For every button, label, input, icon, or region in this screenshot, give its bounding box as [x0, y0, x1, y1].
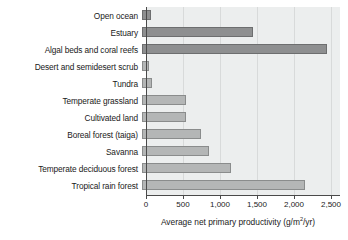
bar-row: Temperate grassland	[0, 92, 348, 109]
bar-track	[142, 143, 342, 160]
bar-track	[142, 41, 342, 58]
x-tick-2500	[331, 195, 332, 199]
x-tick-1000	[220, 195, 221, 199]
bar-row: Tundra	[0, 75, 348, 92]
x-tick-label: 1,500	[247, 200, 267, 209]
y-axis-line	[146, 7, 147, 195]
bar-track	[142, 75, 342, 92]
bar-track	[142, 7, 342, 24]
bar	[142, 146, 209, 156]
category-label: Temperate deciduous forest	[0, 164, 142, 174]
bar-row: Temperate deciduous forest	[0, 160, 348, 177]
category-label: Cultivated land	[0, 113, 142, 123]
x-tick-500	[183, 195, 184, 199]
category-label: Boreal forest (taiga)	[0, 130, 142, 140]
category-label: Algal beds and coral reefs	[0, 45, 142, 55]
category-label: Tundra	[0, 79, 142, 89]
category-label: Estuary	[0, 28, 142, 38]
bar	[142, 163, 231, 173]
category-label: Open ocean	[0, 11, 142, 21]
bar-chart: Open oceanEstuaryAlgal beds and coral re…	[0, 0, 348, 240]
bar-row: Cultivated land	[0, 109, 348, 126]
x-tick-label: 0	[144, 200, 148, 209]
bar-row: Boreal forest (taiga)	[0, 126, 348, 143]
bar-row: Open ocean	[0, 7, 348, 24]
bar	[142, 78, 152, 88]
bar-track	[142, 58, 342, 75]
category-label: Temperate grassland	[0, 96, 142, 106]
x-tick-0	[146, 195, 147, 199]
bar-track	[142, 160, 342, 177]
x-tick-label: 500	[176, 200, 189, 209]
bar	[142, 180, 305, 190]
x-axis-line	[146, 195, 340, 196]
x-tick-label: 2,000	[284, 200, 304, 209]
x-tick-label: 2,500	[321, 200, 341, 209]
x-tick-label: 1,000	[210, 200, 230, 209]
bar-row: Savanna	[0, 143, 348, 160]
bar	[142, 129, 201, 139]
bar-track	[142, 92, 342, 109]
bar	[142, 44, 327, 54]
x-tick-2000	[294, 195, 295, 199]
x-tick-1500	[257, 195, 258, 199]
bar	[142, 27, 253, 37]
bar-track	[142, 109, 342, 126]
bar-track	[142, 177, 342, 194]
x-axis-title-prefix: Average net primary productivity (g/m	[161, 217, 300, 227]
bar-track	[142, 24, 342, 41]
category-label: Savanna	[0, 147, 142, 157]
category-label: Tropical rain forest	[0, 181, 142, 191]
bar-row: Tropical rain forest	[0, 177, 348, 194]
bar-track	[142, 126, 342, 143]
bar	[142, 95, 186, 105]
x-axis-title-suffix: /yr)	[303, 217, 315, 227]
bar-row: Algal beds and coral reefs	[0, 41, 348, 58]
category-label: Desert and semidesert scrub	[0, 62, 142, 72]
bar	[142, 112, 186, 122]
bar-row: Desert and semidesert scrub	[0, 58, 348, 75]
x-axis-title: Average net primary productivity (g/m2/y…	[141, 216, 335, 227]
bar-row: Estuary	[0, 24, 348, 41]
